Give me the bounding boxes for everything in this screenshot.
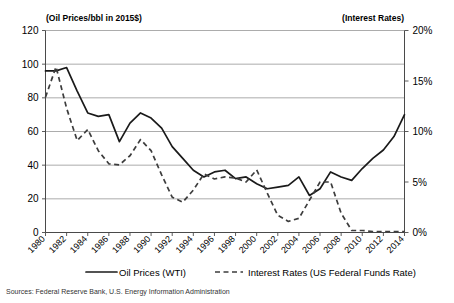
x-tick-label: 1994 xyxy=(174,234,195,255)
y-tick-label: 20 xyxy=(27,193,39,204)
legend-label-interest-rates: Interest Rates (US Federal Funds Rate) xyxy=(248,267,416,278)
x-tick-label: 2012 xyxy=(364,234,385,255)
right-axis-header: (Interest Rates) xyxy=(342,13,404,23)
y2-tick-label: 0% xyxy=(413,227,428,238)
y2-axis-tick-labels: 0%5%10%15%20% xyxy=(413,25,433,238)
x-axis-tick-labels: 1980198219841986198819901992199419961998… xyxy=(26,234,406,255)
x-tick-label: 1982 xyxy=(47,234,68,255)
y2-tick-label: 15% xyxy=(413,76,433,87)
x-tick-label: 2006 xyxy=(300,234,321,255)
x-tick-label: 1992 xyxy=(152,234,173,255)
y2-tick-label: 20% xyxy=(413,25,433,36)
y-tick-label: 120 xyxy=(22,25,39,36)
x-tick-label: 1986 xyxy=(89,234,110,255)
x-tick-label: 1984 xyxy=(68,234,89,255)
chart-canvas: 020406080100120 0%5%10%15%20% 1980198219… xyxy=(0,0,454,303)
axes-group xyxy=(42,31,409,237)
x-tick-label: 2004 xyxy=(279,234,300,255)
y2-tick-label: 5% xyxy=(413,177,428,188)
y-axis-tick-labels: 020406080100120 xyxy=(22,25,39,238)
x-tick-label: 2008 xyxy=(321,234,342,255)
x-tick-label: 1996 xyxy=(195,234,216,255)
y-tick-label: 100 xyxy=(22,59,39,70)
legend-label-oil-prices: Oil Prices (WTI) xyxy=(119,267,186,278)
oil-prices-interest-rates-chart: 020406080100120 0%5%10%15%20% 1980198219… xyxy=(0,0,454,303)
data-series-group xyxy=(46,67,405,232)
series-line-interest-rates xyxy=(46,67,405,232)
y-tick-label: 80 xyxy=(27,92,39,103)
x-tick-label: 2010 xyxy=(342,234,363,255)
x-tick-label: 2014 xyxy=(385,234,406,255)
x-tick-label: 1980 xyxy=(26,234,47,255)
x-tick-label: 1998 xyxy=(216,234,237,255)
x-tick-label: 1988 xyxy=(110,234,131,255)
y-tick-label: 60 xyxy=(27,126,39,137)
chart-legend: Oil Prices (WTI) Interest Rates (US Fede… xyxy=(86,267,416,278)
x-tick-label: 1990 xyxy=(131,234,152,255)
left-axis-header: (Oil Prices/bbl in 2015$) xyxy=(46,13,142,23)
y2-tick-label: 10% xyxy=(413,126,433,137)
x-tick-label: 2000 xyxy=(237,234,258,255)
source-note: Sources: Federal Reserve Bank, U.S. Ener… xyxy=(6,288,230,296)
x-tick-label: 2002 xyxy=(258,234,279,255)
gridlines-group xyxy=(46,31,405,233)
y-tick-label: 40 xyxy=(27,160,39,171)
